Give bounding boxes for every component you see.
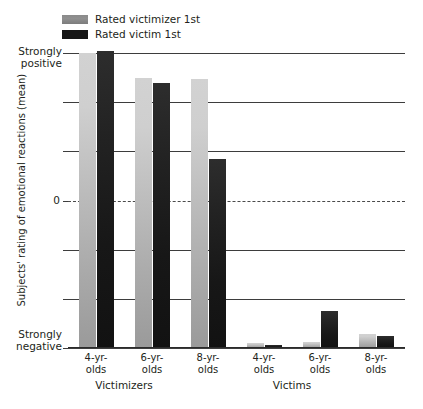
x-tick-label-victimizers-6yr: 6-yr- olds [124, 352, 180, 375]
y-axis-tick [63, 348, 68, 349]
plot-area [68, 53, 405, 348]
x-tick-label-victims-8yr: 8-yr- olds [348, 352, 404, 375]
x-tick-label-victims-6yr: 6-yr- olds [292, 352, 348, 375]
bar-victimizers-4-yr-olds-victimizer [79, 53, 96, 348]
y-axis-bottom-label: Strongly negative [6, 328, 62, 352]
y-axis-zero-label: 0 [44, 194, 60, 206]
y-axis-top-label: Strongly positive [6, 45, 62, 69]
legend-label-victim: Rated victim 1st [95, 29, 181, 40]
bar-victimizers-6-yr-olds-victimizer [135, 78, 152, 348]
gridline [68, 348, 405, 349]
legend-item-rated-victimizer-1st: Rated victimizer 1st [62, 13, 200, 25]
x-group-label-victims: Victims [232, 379, 352, 391]
bar-victimizers-6-yr-olds-victim [153, 83, 170, 349]
bar-victims-6-yr-olds-victim [321, 311, 338, 348]
legend-swatch-victim [62, 30, 88, 39]
x-tick-label-victims-4yr: 4-yr- olds [236, 352, 292, 375]
x-axis-baseline [68, 347, 405, 349]
bar-victimizers-8-yr-olds-victimizer [191, 79, 208, 348]
bar-victimizers-8-yr-olds-victim [209, 159, 226, 348]
y-axis-title: Subjects' rating of emotional reactions … [16, 97, 27, 307]
chart-legend: Rated victimizer 1st Rated victim 1st [62, 13, 200, 40]
legend-swatch-victimizer [62, 15, 88, 24]
bar-series-container [68, 53, 405, 348]
bar-victimizers-4-yr-olds-victim [97, 51, 114, 348]
x-tick-label-victimizers-4yr: 4-yr- olds [68, 352, 124, 375]
x-tick-label-victimizers-8yr: 8-yr- olds [180, 352, 236, 375]
legend-item-rated-victim-1st: Rated victim 1st [62, 28, 200, 40]
x-group-label-victimizers: Victimizers [64, 379, 184, 391]
legend-label-victimizer: Rated victimizer 1st [95, 14, 200, 25]
